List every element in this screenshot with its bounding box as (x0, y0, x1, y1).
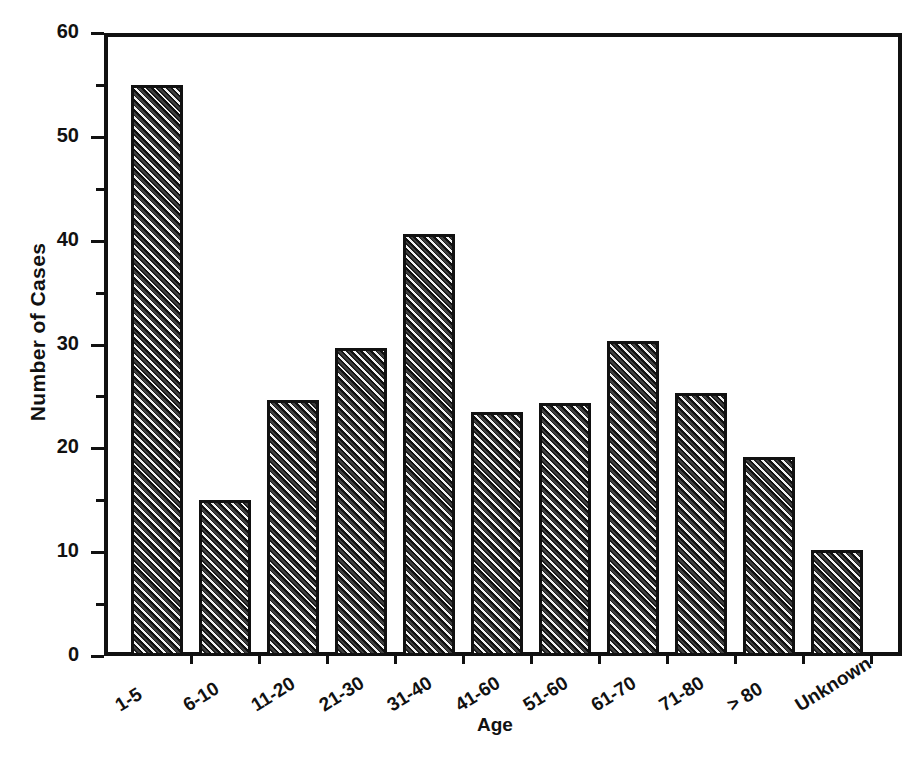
x-axis-tick (802, 652, 805, 664)
y-axis-tick (91, 32, 104, 35)
x-axis-category-label: > 80 (723, 678, 766, 717)
y-axis-tick (91, 551, 104, 554)
bar-chart-figure: Number of Cases Age 0102030405060 1-56-1… (0, 0, 922, 771)
y-axis-minor-tick (96, 499, 104, 502)
x-axis-tick (394, 652, 397, 664)
x-axis-tick (598, 652, 601, 664)
x-axis-tick (666, 652, 669, 664)
y-axis-minor-tick (96, 395, 104, 398)
x-axis-category-label: 41-60 (451, 672, 504, 716)
y-axis-minor-tick (96, 188, 104, 191)
bar (539, 403, 591, 656)
y-axis-tick-label: 20 (9, 435, 79, 458)
bar (131, 85, 183, 656)
plot-area (104, 33, 902, 656)
x-axis-category-label: 51-60 (519, 672, 572, 716)
bar (335, 348, 387, 656)
bar (607, 341, 659, 656)
y-axis-tick-label: 60 (9, 20, 79, 43)
x-axis-category-label: 11-20 (247, 672, 299, 716)
bar (471, 412, 523, 656)
bar (811, 550, 863, 656)
y-axis-tick (91, 447, 104, 450)
x-axis-tick (326, 652, 329, 664)
x-axis-tick (530, 652, 533, 664)
y-axis-tick-label: 50 (9, 124, 79, 147)
plot-frame-left-axis (104, 33, 108, 656)
x-axis-title: Age (380, 714, 610, 736)
y-axis-tick (91, 240, 104, 243)
bar (743, 457, 795, 656)
y-axis-minor-tick (96, 292, 104, 295)
x-axis-tick (258, 652, 261, 664)
bar (199, 500, 251, 656)
plot-frame-right (898, 33, 902, 656)
x-axis-tick (734, 652, 737, 664)
x-axis-category-label: 6-10 (179, 678, 223, 717)
y-axis-tick-label: 30 (9, 332, 79, 355)
x-axis-category-label: 71-80 (655, 672, 708, 716)
y-axis-minor-tick (96, 603, 104, 606)
y-axis-tick (91, 655, 104, 658)
bar (675, 393, 727, 656)
y-axis-tick (91, 136, 104, 139)
x-axis-category-label: 31-40 (383, 672, 436, 716)
bar (267, 400, 319, 656)
x-axis-category-label: 1-5 (111, 683, 146, 716)
bar (403, 234, 455, 656)
y-axis-tick-label: 0 (9, 643, 79, 666)
x-axis-tick (190, 652, 193, 664)
x-axis-category-label: 21-30 (315, 672, 368, 716)
y-axis-tick-label: 10 (9, 539, 79, 562)
x-axis-tick (462, 652, 465, 664)
x-axis-category-label: 61-70 (587, 672, 640, 716)
y-axis-minor-tick (96, 84, 104, 87)
y-axis-tick-label: 40 (9, 228, 79, 251)
plot-frame-top (104, 33, 902, 37)
y-axis-tick (91, 344, 104, 347)
